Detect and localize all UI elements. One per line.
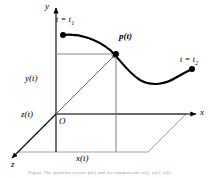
figure-caption: Figure The position vector p(t) and its … bbox=[28, 170, 172, 175]
caption-strip: Figure The position vector p(t) and its … bbox=[0, 170, 224, 178]
start-point-label-prefix: t = t bbox=[56, 15, 71, 24]
end-point-label-index: 2 bbox=[195, 60, 198, 66]
end-point-marker bbox=[189, 66, 195, 72]
x-component-label: x(t) bbox=[76, 154, 89, 163]
x-axis-label: x bbox=[200, 108, 204, 117]
start-point-label-index: 1 bbox=[71, 20, 74, 26]
space-curve-path bbox=[63, 35, 192, 84]
base-plane-parallelogram bbox=[18, 114, 186, 152]
vector-tip-marker bbox=[113, 51, 119, 57]
end-point-label: t = t2 bbox=[180, 56, 198, 66]
position-vector-label: p(t) bbox=[119, 32, 132, 41]
plane-edge-right bbox=[148, 114, 186, 152]
y-axis-label: y bbox=[45, 2, 49, 11]
figure-root: y x z O y(t) z(t) x(t) p(t) t = t1 t = t… bbox=[0, 0, 224, 178]
z-component-label: z(t) bbox=[21, 110, 33, 119]
z-axis-label: z bbox=[11, 160, 15, 169]
end-point-label-prefix: t = t bbox=[180, 55, 195, 64]
origin-label: O bbox=[59, 117, 66, 126]
start-point-label: t = t1 bbox=[56, 16, 74, 26]
z-axis-line bbox=[12, 114, 56, 158]
position-vector-arrow bbox=[56, 54, 116, 114]
start-point-marker bbox=[60, 32, 66, 38]
diagram-canvas bbox=[0, 0, 224, 178]
y-component-label: y(t) bbox=[25, 74, 38, 83]
